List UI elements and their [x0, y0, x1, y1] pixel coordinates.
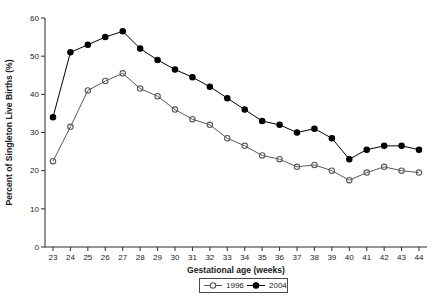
series-line-1996	[53, 73, 419, 180]
data-point-2004-wk39	[329, 136, 334, 141]
x-tick-label: 24	[66, 253, 75, 262]
y-tick-label: 10	[30, 205, 39, 214]
series-line-2004	[53, 31, 419, 159]
axes	[41, 18, 427, 251]
data-point-2004-wk36	[277, 122, 282, 127]
data-point-2004-wk24	[68, 50, 73, 55]
series-1996	[50, 71, 421, 183]
y-tick-label: 20	[30, 166, 39, 175]
y-tick-label: 40	[30, 90, 39, 99]
chart-figure: 0102030405060232425262728293031323334353…	[0, 0, 440, 304]
legend: 19962004	[200, 279, 288, 293]
x-tick-label: 34	[240, 253, 249, 262]
x-axis-title: Gestational age (weeks)	[187, 265, 285, 275]
data-point-2004-wk32	[207, 84, 212, 89]
data-point-2004-wk38	[312, 126, 317, 131]
data-point-2004-wk26	[103, 34, 108, 39]
data-point-2004-wk43	[399, 143, 404, 148]
data-point-2004-wk33	[225, 95, 230, 100]
x-tick-label: 36	[275, 253, 284, 262]
data-point-2004-wk25	[85, 42, 90, 47]
y-axis-title: Percent of Singleton Live Births (%)	[4, 59, 14, 205]
y-tick-label: 50	[30, 52, 39, 61]
x-tick-label: 38	[310, 253, 319, 262]
data-point-2004-wk44	[416, 147, 421, 152]
y-tick-label: 60	[30, 14, 39, 23]
x-tick-label: 37	[293, 253, 302, 262]
legend-label-1996: 1996	[226, 281, 244, 290]
data-point-2004-wk30	[172, 67, 177, 72]
axis-lines	[45, 18, 427, 247]
x-tick-label: 40	[345, 253, 354, 262]
x-tick-label: 27	[118, 253, 127, 262]
x-tick-label: 43	[397, 253, 406, 262]
chart-svg: 0102030405060232425262728293031323334353…	[0, 0, 440, 304]
y-tick-label: 30	[30, 128, 39, 137]
x-tick-label: 32	[205, 253, 214, 262]
x-tick-label: 35	[258, 253, 267, 262]
data-point-2004-wk37	[294, 130, 299, 135]
x-tick-label: 39	[327, 253, 336, 262]
x-tick-label: 33	[223, 253, 232, 262]
y-tick-label: 0	[35, 243, 40, 252]
x-tick-label: 28	[136, 253, 145, 262]
legend-label-2004: 2004	[269, 281, 287, 290]
x-tick-label: 23	[49, 253, 58, 262]
data-point-2004-wk23	[50, 115, 55, 120]
x-tick-label: 42	[380, 253, 389, 262]
data-point-2004-wk29	[155, 57, 160, 62]
data-point-2004-wk41	[364, 147, 369, 152]
x-tick-label: 26	[101, 253, 110, 262]
data-point-2004-wk35	[259, 118, 264, 123]
x-tick-label: 44	[415, 253, 424, 262]
x-tick-label: 25	[83, 253, 92, 262]
data-point-2004-wk40	[347, 157, 352, 162]
x-tick-label: 41	[362, 253, 371, 262]
data-point-2004-wk28	[137, 46, 142, 51]
x-tick-label: 30	[171, 253, 180, 262]
data-point-2004-wk31	[190, 74, 195, 79]
x-tick-label: 31	[188, 253, 197, 262]
data-point-2004-wk34	[242, 107, 247, 112]
data-point-2004-wk42	[381, 143, 386, 148]
legend-marker-2004	[253, 283, 258, 288]
x-tick-label: 29	[153, 253, 162, 262]
data-point-2004-wk27	[120, 29, 125, 34]
legend-marker-1996	[210, 283, 215, 288]
